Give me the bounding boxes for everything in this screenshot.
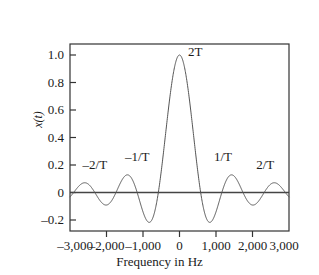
x-tick-label: –3,000 [57, 239, 93, 253]
annotation-pos-2-over-t: 2/T [256, 158, 274, 171]
plot-area [0, 0, 319, 275]
x-tick-label: –1,000 [125, 239, 161, 253]
annotation-neg-2-over-t: –2/T [83, 158, 108, 171]
annotation-neg-1-over-t: –1/T [125, 150, 150, 163]
annotation-2t-peak: 2T [188, 45, 202, 58]
x-tick-label: 2,000 [238, 239, 267, 253]
x-tick-label: 0 [176, 239, 183, 253]
x-tick-label: 3,000 [269, 239, 298, 253]
x-axis-label: Frequency in Hz [0, 255, 319, 269]
x-tick-label: –2,000 [89, 239, 125, 253]
x-tick-label: 1,000 [201, 239, 230, 253]
chart-figure: x(t) –0.200.20.40.60.81.0 2T–2/T–1/T1/T2… [0, 0, 319, 275]
x-axis-tick-labels: –3,000–2,000–1,00001,0002,0003,000 [0, 239, 319, 255]
annotation-pos-1-over-t: 1/T [214, 150, 232, 163]
plot-frame [70, 44, 289, 231]
